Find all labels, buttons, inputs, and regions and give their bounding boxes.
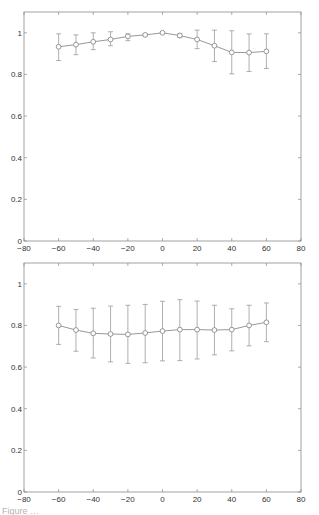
y-tick-label: 0.4 bbox=[11, 405, 23, 414]
data-point-marker bbox=[125, 34, 130, 39]
figure: −80−60−40−2002040608000.20.40.60.81 −80−… bbox=[0, 0, 319, 515]
x-tick-label: −40 bbox=[86, 495, 100, 504]
data-point-marker bbox=[143, 33, 148, 38]
y-tick-label: 0.2 bbox=[11, 195, 23, 204]
y-tick-label: 0.8 bbox=[11, 321, 23, 330]
y-tick-label: 0 bbox=[18, 237, 23, 246]
data-point-marker bbox=[91, 331, 96, 336]
data-point-marker bbox=[264, 49, 269, 54]
y-tick-label: 0.6 bbox=[11, 363, 23, 372]
data-point-marker bbox=[108, 37, 113, 42]
data-point-marker bbox=[108, 332, 113, 337]
y-tick-label: 0.6 bbox=[11, 112, 23, 121]
data-point-marker bbox=[247, 323, 252, 328]
data-point-marker bbox=[212, 328, 217, 333]
data-point-marker bbox=[229, 50, 234, 55]
data-point-marker bbox=[143, 331, 148, 336]
data-point-marker bbox=[195, 37, 200, 42]
data-point-marker bbox=[212, 43, 217, 48]
chart-bottom-errorbar-plot: −80−60−40−2002040608000.20.40.60.81 bbox=[0, 251, 319, 509]
figure-caption: Figure … bbox=[2, 506, 39, 515]
data-point-marker bbox=[229, 327, 234, 332]
x-tick-label: −60 bbox=[52, 495, 66, 504]
plot-frame bbox=[24, 263, 301, 492]
series-bottom bbox=[56, 300, 269, 364]
y-tick-label: 0.2 bbox=[11, 446, 23, 455]
data-point-marker bbox=[177, 33, 182, 38]
x-tick-label: 60 bbox=[262, 495, 271, 504]
x-tick-label: 20 bbox=[193, 495, 202, 504]
data-point-marker bbox=[247, 50, 252, 55]
data-point-marker bbox=[195, 327, 200, 332]
data-point-marker bbox=[264, 320, 269, 325]
data-point-marker bbox=[56, 44, 61, 49]
data-point-marker bbox=[91, 39, 96, 44]
data-point-marker bbox=[160, 30, 165, 35]
series-top bbox=[56, 30, 269, 74]
y-tick-label: 0.4 bbox=[11, 154, 23, 163]
x-tick-label: 80 bbox=[297, 495, 306, 504]
y-tick-label: 0 bbox=[18, 488, 23, 497]
y-tick-label: 1 bbox=[18, 29, 23, 38]
data-point-marker bbox=[74, 328, 79, 333]
y-tick-label: 0.8 bbox=[11, 70, 23, 79]
x-tick-label: 0 bbox=[160, 495, 165, 504]
x-tick-label: −20 bbox=[121, 495, 135, 504]
data-point-marker bbox=[160, 329, 165, 334]
x-tick-label: 40 bbox=[227, 495, 236, 504]
series-line bbox=[59, 33, 267, 53]
y-tick-label: 1 bbox=[18, 280, 23, 289]
chart-top-errorbar-plot: −80−60−40−2002040608000.20.40.60.81 bbox=[0, 0, 319, 258]
data-point-marker bbox=[74, 42, 79, 47]
data-point-marker bbox=[125, 332, 130, 337]
data-point-marker bbox=[56, 323, 61, 328]
data-point-marker bbox=[177, 327, 182, 332]
